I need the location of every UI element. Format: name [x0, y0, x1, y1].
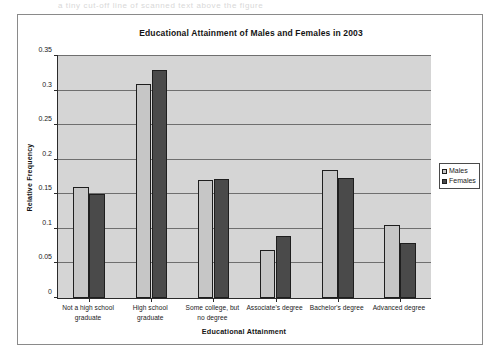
plot-area: 00.050.10.150.20.250.30.35 [57, 56, 431, 299]
x-tick-mark [338, 298, 339, 302]
x-label-line: graduate [119, 313, 181, 323]
bar-females-2 [214, 179, 230, 298]
males-swatch-icon [442, 169, 447, 174]
y-tick-mark [54, 297, 58, 298]
x-label-line: Bachelor's degree [306, 303, 368, 313]
bar-males-4 [322, 170, 338, 298]
x-label-line: High school [119, 303, 181, 313]
x-label-line: graduate [57, 313, 119, 323]
y-tick-label: 0.25 [38, 115, 52, 122]
chart-title: Educational Attainment of Males and Fema… [18, 28, 484, 38]
x-axis-label-0: Not a high schoolgraduate [57, 303, 119, 322]
bar-males-1 [136, 84, 152, 298]
bar-females-1 [152, 70, 168, 298]
bar-males-5 [384, 225, 400, 298]
x-tick-mark [89, 298, 90, 302]
x-axis-title: Educational Attainment [57, 327, 431, 336]
y-tick-label: 0.05 [38, 253, 52, 260]
x-axis-label-4: Bachelor's degree [306, 303, 368, 313]
bar-females-5 [400, 243, 416, 298]
y-tick-mark [54, 90, 58, 91]
gridline [58, 159, 431, 160]
x-axis-category-labels: Not a high schoolgraduateHigh schoolgrad… [57, 303, 431, 329]
y-tick-label: 0.2 [42, 149, 52, 156]
y-tick-label: 0 [48, 288, 52, 295]
y-tick-mark [54, 159, 58, 160]
x-label-line: Some college, but [181, 303, 243, 313]
x-axis-label-3: Associate's degree [244, 303, 306, 313]
x-tick-mark [276, 298, 277, 302]
gridline [58, 55, 431, 56]
y-tick-mark [54, 55, 58, 56]
y-tick-label: 0.3 [42, 80, 52, 87]
y-tick-mark [54, 124, 58, 125]
y-tick-label: 0.1 [42, 218, 52, 225]
x-tick-mark [400, 298, 401, 302]
bar-females-4 [338, 178, 354, 298]
x-label-line: Advanced degree [368, 303, 430, 313]
x-tick-mark [151, 298, 152, 302]
x-axis-label-2: Some college, butno degree [181, 303, 243, 322]
y-tick-label: 0.15 [38, 184, 52, 191]
legend-item-females: Females [442, 176, 476, 186]
legend-label-males: Males [449, 166, 468, 176]
x-label-line: no degree [181, 313, 243, 323]
bar-males-3 [260, 250, 276, 298]
gridline [58, 262, 431, 263]
x-label-line: Not a high school [57, 303, 119, 313]
gridline [58, 90, 431, 91]
chart-figure-frame: Educational Attainment of Males and Fema… [17, 14, 483, 345]
scan-edge-artifact: a tiny cut-off line of scanned text abov… [0, 0, 499, 12]
bar-males-0 [73, 187, 89, 298]
bar-females-0 [89, 194, 105, 298]
bar-males-2 [198, 180, 214, 298]
legend-item-males: Males [442, 166, 476, 176]
x-label-line: Associate's degree [244, 303, 306, 313]
y-tick-mark [54, 193, 58, 194]
y-tick-mark [54, 262, 58, 263]
legend-label-females: Females [449, 176, 476, 186]
gridline [58, 228, 431, 229]
gridline [58, 124, 431, 125]
gridline [58, 193, 431, 194]
bar-females-3 [276, 236, 292, 298]
y-tick-label: 0.35 [38, 46, 52, 53]
chart-legend: Males Females [439, 163, 480, 189]
x-tick-mark [213, 298, 214, 302]
x-axis-label-5: Advanced degree [368, 303, 430, 313]
y-axis-title: Relative Frequency [24, 56, 36, 299]
x-axis-label-1: High schoolgraduate [119, 303, 181, 322]
y-tick-mark [54, 228, 58, 229]
females-swatch-icon [442, 179, 447, 184]
